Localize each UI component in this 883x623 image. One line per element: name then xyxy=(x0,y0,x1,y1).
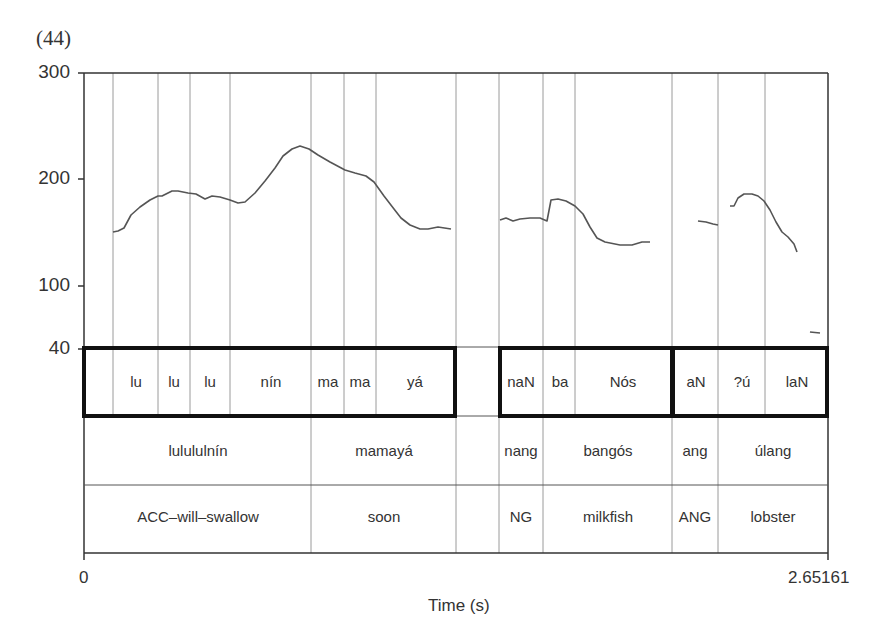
pitch-segment-3 xyxy=(698,221,718,225)
syllable: ?ú xyxy=(734,373,751,390)
y-tick-300: 300 xyxy=(30,61,70,83)
syllable: lu xyxy=(130,373,142,390)
y-tick-100: 100 xyxy=(30,274,70,296)
phrase-boxes xyxy=(84,348,827,416)
syllable: nín xyxy=(261,373,282,390)
syllable: ba xyxy=(552,373,569,390)
x-tick-end: 2.65161 xyxy=(788,568,849,588)
y-tick-40: 40 xyxy=(30,337,70,359)
gloss: lobster xyxy=(750,508,795,525)
word: lulululnín xyxy=(168,442,227,459)
x-axis-title: Time (s) xyxy=(428,596,490,616)
word: mamayá xyxy=(355,442,413,459)
y-tick-200: 200 xyxy=(30,167,70,189)
gloss: ACC–will–swallow xyxy=(137,508,259,525)
word: úlang xyxy=(755,442,792,459)
pitch-segment-1 xyxy=(113,146,451,232)
pitch-segment-4 xyxy=(730,194,797,252)
syllable: ma xyxy=(350,373,371,390)
word: ang xyxy=(682,442,707,459)
syllable: laN xyxy=(786,373,809,390)
gloss: milkfish xyxy=(583,508,633,525)
syllable: aN xyxy=(686,373,705,390)
syllable: lu xyxy=(204,373,216,390)
syllable: lu xyxy=(168,373,180,390)
syllable: yá xyxy=(407,373,423,390)
word: bangós xyxy=(583,442,632,459)
x-tick-start: 0 xyxy=(79,568,88,588)
pitch-contour xyxy=(113,146,820,333)
pitch-figure: (44) xyxy=(0,0,883,623)
syllable: naN xyxy=(507,373,535,390)
gloss: soon xyxy=(368,508,401,525)
segment-boundaries xyxy=(113,73,765,553)
gloss: ANG xyxy=(679,508,712,525)
gloss: NG xyxy=(510,508,533,525)
chart-canvas xyxy=(0,0,883,623)
syllable: Nós xyxy=(610,373,637,390)
word: nang xyxy=(504,442,537,459)
syllable: ma xyxy=(318,373,339,390)
pitch-fragment xyxy=(810,332,820,333)
